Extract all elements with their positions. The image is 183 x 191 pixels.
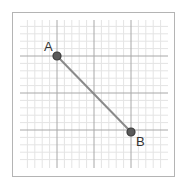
point-a[interactable]	[53, 52, 61, 60]
point-b-label: B	[136, 134, 145, 149]
coordinate-grid: A B	[0, 0, 183, 191]
point-a-label: A	[44, 39, 53, 54]
point-b[interactable]	[127, 128, 135, 136]
